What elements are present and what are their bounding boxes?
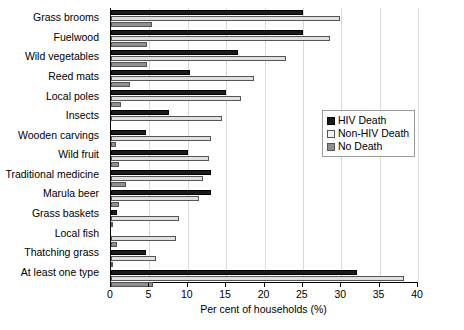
x-axis-tick-label: 25 — [296, 288, 308, 300]
bar — [111, 130, 146, 135]
x-axis-tick-label: 5 — [145, 288, 151, 300]
y-axis-label: Local fish — [0, 223, 104, 243]
bar-group — [111, 68, 418, 88]
bar — [111, 142, 116, 147]
legend-swatch-icon — [327, 130, 335, 138]
tick-mark — [225, 283, 226, 287]
bar — [111, 242, 117, 247]
y-axis-label: Insects — [0, 106, 104, 126]
bar — [111, 196, 199, 201]
bar-group — [111, 248, 418, 268]
x-axis-tick-label: 35 — [373, 288, 385, 300]
bar — [111, 216, 179, 221]
bar — [111, 262, 113, 267]
bar — [111, 70, 190, 75]
x-axis-title: Per cent of households (%) — [110, 303, 417, 315]
bar — [111, 156, 209, 161]
gridline — [418, 8, 419, 282]
bar — [111, 276, 404, 281]
y-axis-label: At least one type — [0, 263, 104, 283]
legend-label: No Death — [338, 140, 382, 153]
y-axis-label: Thatching grass — [0, 243, 104, 263]
tick-mark — [187, 283, 188, 287]
legend-label: Non-HIV Death — [338, 127, 409, 140]
bar — [111, 42, 147, 47]
x-axis-tick-label: 15 — [219, 288, 231, 300]
bar — [111, 82, 130, 87]
bar — [111, 250, 146, 255]
tick-mark — [264, 283, 265, 287]
x-axis-tick-label: 30 — [334, 288, 346, 300]
bar — [111, 36, 330, 41]
y-axis-label: Wild vegetables — [0, 47, 104, 67]
bar — [111, 110, 169, 115]
legend-swatch-icon — [327, 117, 335, 125]
bar — [111, 162, 119, 167]
legend-label: HIV Death — [338, 114, 386, 127]
bar — [111, 236, 176, 241]
bar — [111, 90, 226, 95]
bar — [111, 102, 121, 107]
bar-group — [111, 168, 418, 188]
legend-swatch-icon — [327, 143, 335, 151]
x-axis-tick-label: 40 — [411, 288, 423, 300]
tick-mark — [379, 283, 380, 287]
y-axis-label: Wild fruit — [0, 145, 104, 165]
tick-mark — [417, 283, 418, 287]
bar — [111, 136, 211, 141]
bar-group — [111, 228, 418, 248]
bar-chart: Grass broomsFuelwoodWild vegetablesReed … — [0, 0, 464, 330]
x-axis-tick-label: 20 — [258, 288, 270, 300]
y-axis-label: Local poles — [0, 86, 104, 106]
bar — [111, 116, 222, 121]
bar-group — [111, 48, 418, 68]
y-axis-label: Grass baskets — [0, 204, 104, 224]
bar — [111, 50, 238, 55]
bar — [111, 210, 117, 215]
bar-group — [111, 88, 418, 108]
bar — [111, 150, 188, 155]
bar-group — [111, 188, 418, 208]
tick-mark — [340, 283, 341, 287]
bar — [111, 170, 211, 175]
bar — [111, 256, 156, 261]
bar — [111, 182, 126, 187]
bar — [111, 62, 147, 67]
bar — [111, 96, 241, 101]
y-axis-category-labels: Grass broomsFuelwoodWild vegetablesReed … — [0, 8, 104, 282]
y-axis-label: Reed mats — [0, 67, 104, 87]
bar — [111, 76, 254, 81]
bar — [111, 190, 211, 195]
x-axis-tick-label: 0 — [107, 288, 113, 300]
bar-group — [111, 28, 418, 48]
bar — [111, 270, 357, 275]
legend-item: HIV Death — [327, 114, 409, 127]
tick-mark — [148, 283, 149, 287]
x-axis-tick-label: 10 — [181, 288, 193, 300]
bar — [111, 176, 203, 181]
tick-mark — [110, 283, 111, 287]
bar — [111, 202, 119, 207]
y-axis-label: Marula beer — [0, 184, 104, 204]
bar-group — [111, 8, 418, 28]
bar — [111, 10, 303, 15]
y-axis-label: Grass brooms — [0, 8, 104, 28]
bar — [111, 56, 286, 61]
y-axis-label: Traditional medicine — [0, 165, 104, 185]
legend-item: No Death — [327, 140, 409, 153]
y-axis-label: Wooden carvings — [0, 125, 104, 145]
bar-group — [111, 208, 418, 228]
y-axis-label: Fuelwood — [0, 28, 104, 48]
bar — [111, 30, 303, 35]
legend-item: Non-HIV Death — [327, 127, 409, 140]
bar — [111, 22, 152, 27]
bar — [111, 16, 340, 21]
bar — [111, 222, 113, 227]
chart-legend: HIV DeathNon-HIV DeathNo Death — [322, 110, 415, 157]
x-axis-ticks: 0510152025303540 — [110, 283, 417, 288]
tick-mark — [302, 283, 303, 287]
